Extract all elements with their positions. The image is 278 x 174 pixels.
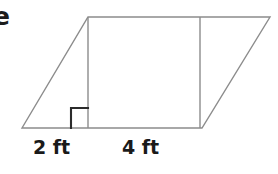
right-angle-marker-icon [71, 108, 88, 128]
parallelogram-outline [22, 17, 270, 128]
dimension-label-right-base: 4 ft [122, 138, 159, 157]
dimension-label-left-base: 2 ft [33, 138, 70, 157]
geometry-figure: e 2 ft 4 ft [0, 0, 278, 174]
